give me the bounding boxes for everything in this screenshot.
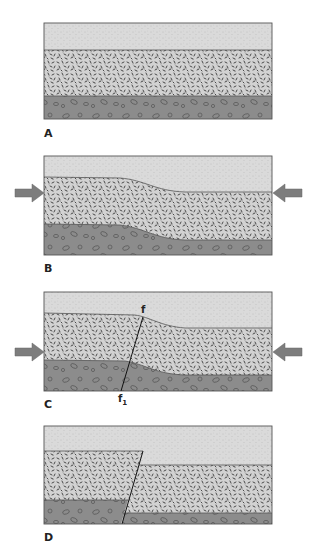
compression-arrow-right (273, 343, 302, 361)
panel-label-c: C (44, 398, 52, 411)
fault-top-label: f (141, 304, 145, 315)
panel-label-d: D (44, 531, 53, 544)
panel-label-b: B (44, 262, 52, 275)
panel-label-a: A (44, 127, 53, 140)
compression-arrow-left (15, 343, 44, 361)
panel-a (44, 23, 272, 119)
fault-bottom-subscript: 1 (122, 399, 127, 407)
panel-d (44, 426, 272, 524)
panel-b (15, 156, 302, 255)
compression-arrow-right (273, 184, 302, 202)
compression-arrow-left (15, 184, 44, 202)
panel-c (15, 292, 302, 391)
fault-bottom-label: f1 (118, 393, 127, 407)
